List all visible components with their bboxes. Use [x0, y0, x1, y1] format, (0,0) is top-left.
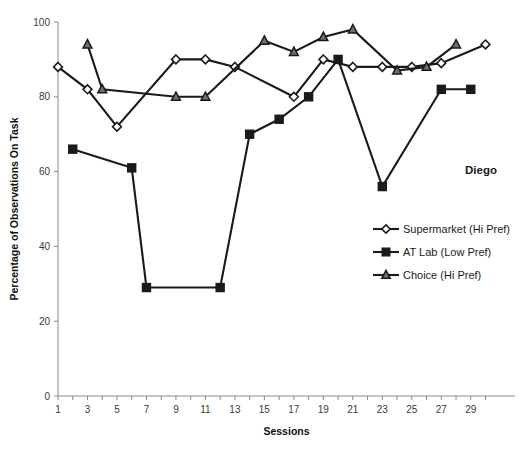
x-tick-label-1: 1	[55, 404, 61, 415]
series-1-point-1-square-marker	[128, 164, 136, 172]
series-2-point-0-triangle-marker	[83, 40, 92, 48]
x-tick-label-19: 19	[318, 404, 330, 415]
x-tick-label-15: 15	[259, 404, 271, 415]
x-tick-label-11: 11	[200, 404, 211, 415]
series-0-point-4-diamond-marker	[201, 55, 210, 64]
y-tick-label-80: 80	[39, 91, 51, 102]
series-0-point-11-diamond-marker	[437, 59, 446, 68]
legend-item-0[interactable]: Supermarket (Hi Pref)	[373, 223, 510, 235]
series-2-point-4-triangle-marker	[260, 36, 269, 44]
series-0-line	[58, 44, 486, 126]
chart-page: 0204060801001357911131517192123252729Per…	[0, 0, 531, 449]
y-tick-label-100: 100	[33, 17, 50, 28]
legend-item-0-label: Supermarket (Hi Pref)	[403, 223, 510, 235]
series-0-point-8-diamond-marker	[348, 62, 357, 71]
series-1-point-6-square-marker	[305, 93, 313, 101]
legend-item-2[interactable]: Choice (Hi Pref)	[373, 269, 481, 281]
x-tick-label-27: 27	[436, 404, 448, 415]
y-tick-label-20: 20	[39, 316, 51, 327]
x-tick-label-3: 3	[85, 404, 91, 415]
legend-item-0-diamond-marker	[382, 225, 390, 233]
x-tick-label-7: 7	[144, 404, 150, 415]
series-1-point-0-square-marker	[69, 145, 77, 153]
series-0-point-12-diamond-marker	[481, 40, 490, 49]
series-0-point-9-diamond-marker	[378, 62, 387, 71]
y-tick-label-40: 40	[39, 241, 51, 252]
series-2	[83, 25, 460, 101]
y-tick-label-0: 0	[44, 391, 50, 402]
legend-item-1-square-marker	[382, 248, 390, 256]
x-tick-label-29: 29	[465, 404, 477, 415]
legend-item-2-triangle-marker	[382, 270, 390, 278]
y-tick-label-60: 60	[39, 166, 51, 177]
x-tick-label-23: 23	[377, 404, 389, 415]
legend-item-1-label: AT Lab (Low Pref)	[403, 246, 491, 258]
legend-item-1[interactable]: AT Lab (Low Pref)	[373, 246, 491, 258]
x-tick-label-5: 5	[114, 404, 120, 415]
y-axis-title: Percentage of Observations On Task	[8, 117, 20, 300]
series-1-point-9-square-marker	[437, 85, 445, 93]
series-1-point-10-square-marker	[467, 85, 475, 93]
x-tick-label-13: 13	[229, 404, 241, 415]
x-tick-label-21: 21	[347, 404, 359, 415]
series-1-point-5-square-marker	[275, 115, 283, 123]
series-1-point-8-square-marker	[378, 183, 386, 191]
x-axis-title: Sessions	[263, 425, 309, 437]
annotation-label: Diego	[465, 164, 497, 176]
series-2-point-7-triangle-marker	[348, 25, 357, 33]
series-1-point-4-square-marker	[246, 130, 254, 138]
x-tick-label-17: 17	[288, 404, 300, 415]
legend-item-2-label: Choice (Hi Pref)	[403, 269, 481, 281]
series-2-point-10-triangle-marker	[452, 40, 461, 48]
series-1-point-2-square-marker	[142, 284, 150, 292]
x-tick-label-9: 9	[173, 404, 179, 415]
series-1-point-7-square-marker	[334, 55, 342, 63]
series-1-point-3-square-marker	[216, 284, 224, 292]
x-tick-label-25: 25	[406, 404, 418, 415]
line-chart: 0204060801001357911131517192123252729Per…	[0, 0, 531, 449]
legend: Supermarket (Hi Pref)AT Lab (Low Pref)Ch…	[373, 223, 510, 281]
